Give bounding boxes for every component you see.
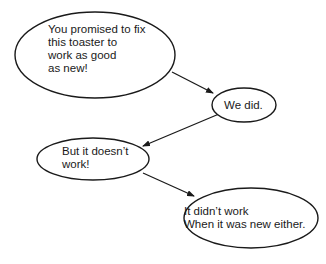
bubble-text-line: work as good: [47, 49, 116, 61]
speech-bubble-4: It didn’t workWhen it was new either.: [184, 188, 318, 248]
bubbles-layer: You promised to fixthis toaster towork a…: [15, 12, 318, 248]
bubble-text-line: You promised to fix: [48, 23, 146, 35]
speech-bubble-1: You promised to fixthis toaster towork a…: [15, 12, 175, 98]
bubble-text-line: When it was new either.: [184, 218, 305, 230]
speech-bubble-2: We did.: [212, 88, 276, 122]
bubble-text-line: It didn’t work: [184, 205, 249, 217]
bubble-text-line: But it doesn’t: [62, 145, 129, 157]
arrow-n2-to-n3: [143, 114, 219, 146]
bubble-text-line: We did.: [224, 99, 263, 111]
arrows-layer: [143, 72, 219, 196]
bubble-text-line: this toaster to: [48, 36, 117, 48]
bubble-text: We did.: [224, 99, 263, 111]
arrow-n1-to-n2: [172, 72, 213, 93]
dialogue-diagram: You promised to fixthis toaster towork a…: [0, 0, 326, 264]
arrow-n3-to-n4: [143, 173, 194, 196]
bubble-text-line: work!: [61, 158, 89, 170]
speech-bubble-3: But it doesn’twork!: [37, 138, 149, 180]
bubble-text-line: as new!: [48, 62, 88, 74]
